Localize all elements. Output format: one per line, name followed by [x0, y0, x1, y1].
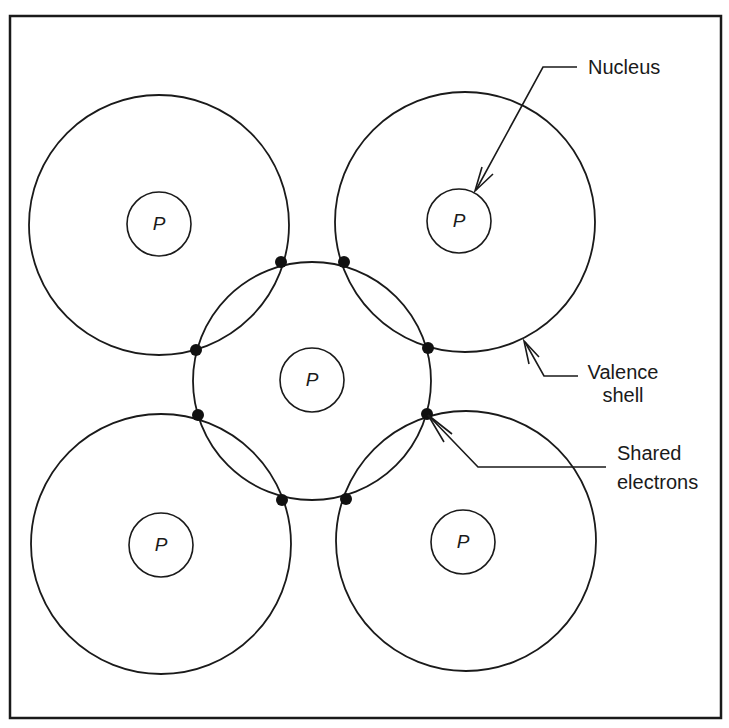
nucleus-label-center: P [292, 370, 332, 389]
label-valence-shell: Valence shell [582, 362, 664, 405]
electron-dot-5 [192, 409, 204, 421]
leader-line-shared_electrons [428, 415, 606, 467]
label-shared-electrons: Shared electrons [617, 443, 698, 492]
label-shared-electrons-line1: Shared [617, 443, 698, 463]
leader-line-nucleus [476, 67, 577, 190]
nucleus-label-bottom-left: P [141, 535, 181, 554]
electron-dot-3 [190, 344, 202, 356]
covalent-bond-diagram: PPPPP Nucleus Valence shell Shared elect… [0, 0, 729, 728]
electron-dot-1 [275, 256, 287, 268]
callout-leaders [428, 67, 606, 467]
leader-line-valence_shell [525, 342, 578, 376]
nucleus-label-top-left: P [139, 214, 179, 233]
label-nucleus: Nucleus [588, 57, 660, 77]
nucleus-label-bottom-right: P [443, 532, 483, 551]
electron-dot-2 [338, 256, 350, 268]
electron-dot-8 [340, 493, 352, 505]
label-shared-electrons-line2: electrons [617, 472, 698, 492]
electron-dot-4 [422, 342, 434, 354]
electron-dot-7 [276, 494, 288, 506]
arrowhead-icon-nucleus [475, 167, 493, 191]
label-valence-shell-line2: shell [582, 385, 664, 405]
nucleus-label-top-right: P [439, 211, 479, 230]
label-valence-shell-line1: Valence [582, 362, 664, 382]
